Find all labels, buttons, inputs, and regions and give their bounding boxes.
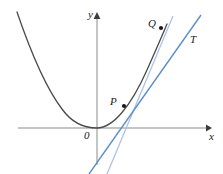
origin-label: 0 <box>84 130 90 141</box>
parabola-curve <box>17 12 167 128</box>
point-q-marker <box>159 26 163 30</box>
tangent-line-t <box>89 15 201 174</box>
y-axis-arrow-icon <box>94 12 101 19</box>
point-p-label: P <box>110 96 117 107</box>
tangent-line-label: T <box>190 34 196 45</box>
point-q-label: Q <box>148 18 156 29</box>
point-p-marker <box>122 104 126 108</box>
figure-canvas <box>0 0 223 174</box>
x-axis-label: x <box>209 131 214 142</box>
y-axis-label: y <box>88 9 93 20</box>
geometry-figure: y x 0 P Q T <box>0 0 223 174</box>
